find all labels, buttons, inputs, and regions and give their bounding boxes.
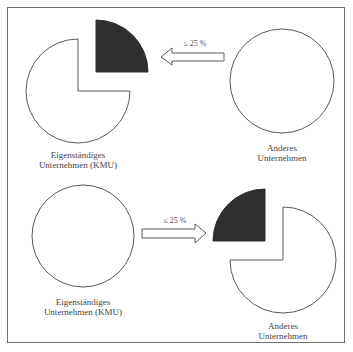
other-company-label-bottom: Anderes Unternehmen [213,321,353,341]
other-company-label-top-line2: Unternehmen [212,153,352,163]
other-company-label-bottom-line1: Anderes [213,321,353,331]
arrow-label-top: ≤ 25 % [175,39,215,48]
other-company-acquired-share [213,189,265,241]
kmu-circle [32,185,134,287]
kmu-label-bottom-line2: Unternehmen (KMU) [13,307,153,317]
arrow-left-icon [161,48,224,65]
kmu-label-top: Eigenständiges Unternehmen (KMU) [8,150,148,170]
kmu-detached-share [96,20,148,72]
other-company-label-top-line1: Anderes [212,143,352,153]
other-company-label-bottom-line2: Unternehmen [213,331,353,341]
other-company-circle [230,29,334,133]
kmu-label-top-line2: Unternehmen (KMU) [8,160,148,170]
arrow-right-icon [142,224,206,243]
arrow-label-bottom: ≤ 25 % [155,216,195,225]
kmu-label-bottom: Eigenständiges Unternehmen (KMU) [13,297,153,317]
kmu-label-bottom-line1: Eigenständiges [13,297,153,307]
other-company-label-top: Anderes Unternehmen [212,143,352,163]
kmu-label-top-line1: Eigenständiges [8,150,148,160]
